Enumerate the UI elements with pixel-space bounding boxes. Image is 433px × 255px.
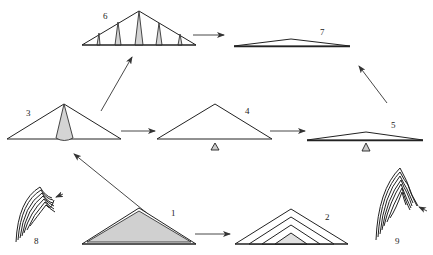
label-9: 9	[395, 236, 400, 246]
label-2: 2	[325, 212, 330, 222]
label-1: 1	[171, 208, 176, 218]
label-5: 5	[391, 120, 396, 130]
diagram-canvas: 6 7 3 4 5 1	[0, 0, 433, 255]
figure-3: 3	[7, 104, 121, 141]
figure-9: 9	[376, 168, 427, 246]
figure-5: 5	[307, 120, 423, 151]
label-6: 6	[103, 11, 108, 21]
label-7: 7	[320, 27, 325, 37]
label-4: 4	[245, 106, 250, 116]
arrow-3-to-6	[101, 57, 132, 111]
fulcrum	[211, 143, 219, 150]
label-8: 8	[34, 236, 39, 246]
figure-2: 2	[235, 209, 348, 244]
fulcrum	[362, 143, 370, 151]
figure-4: 4	[157, 104, 272, 150]
arrow-1-to-3	[74, 154, 148, 214]
arrow-5-to-7	[359, 66, 387, 103]
figure-8: 8	[16, 187, 63, 246]
marker-arrow	[56, 194, 63, 197]
figure-1: 1	[82, 208, 196, 244]
figure-7: 7	[234, 27, 350, 47]
marker-arrow	[419, 207, 427, 211]
label-3: 3	[26, 108, 31, 118]
figure-6: 6	[82, 11, 196, 45]
